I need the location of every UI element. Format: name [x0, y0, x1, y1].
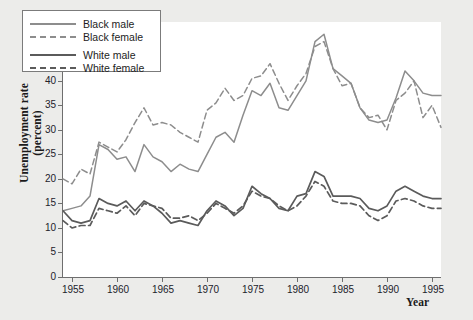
x-tick-label: 1980 — [284, 284, 312, 295]
chart-legend: Black male Black female White male White… — [22, 10, 161, 72]
y-tick-label: 25 — [45, 148, 56, 159]
x-tick-label: 1990 — [374, 284, 402, 295]
x-tick-1985: 1985 — [342, 277, 343, 282]
x-tick-1990: 1990 — [387, 277, 388, 282]
x-tick-label: 1985 — [329, 284, 357, 295]
x-axis-label: Year — [406, 296, 429, 308]
legend-label-black-female: Black female — [76, 31, 143, 43]
x-tick-1955: 1955 — [72, 277, 73, 282]
x-tick-label: 1970 — [194, 284, 222, 295]
x-tick-label: 1955 — [59, 284, 87, 295]
y-tick-label: 40 — [45, 75, 56, 86]
y-tick-0: 0 — [58, 277, 63, 278]
legend-key-black-male-icon — [30, 19, 76, 29]
x-tick-1970: 1970 — [207, 277, 208, 282]
legend-key-white-female-icon — [30, 63, 76, 73]
x-tick-1960: 1960 — [117, 277, 118, 282]
legend-label-white-male: White male — [76, 49, 136, 61]
legend-item-black-female: Black female — [30, 30, 160, 43]
chart-figure: Unemployment rate (percent) 051015202530… — [0, 0, 473, 320]
x-tick-1995: 1995 — [432, 277, 433, 282]
y-tick-label: 10 — [45, 222, 56, 233]
x-tick-1975: 1975 — [252, 277, 253, 282]
legend-label-white-female: White female — [76, 62, 144, 74]
legend-key-black-female-icon — [30, 32, 76, 42]
y-tick-label: 15 — [45, 197, 56, 208]
y-tick-label: 30 — [45, 124, 56, 135]
legend-label-black-male: Black male — [76, 18, 134, 30]
y-tick-label: 35 — [45, 99, 56, 110]
x-tick-1980: 1980 — [297, 277, 298, 282]
legend-item-white-male: White male — [30, 48, 160, 61]
x-tick-label: 1995 — [419, 284, 447, 295]
y-tick-label: 5 — [50, 246, 56, 257]
legend-item-black-male: Black male — [30, 17, 160, 30]
y-tick-label: 0 — [50, 271, 56, 282]
y-tick-label: 20 — [45, 173, 56, 184]
x-tick-label: 1965 — [149, 284, 177, 295]
x-tick-1965: 1965 — [162, 277, 163, 282]
legend-key-white-male-icon — [30, 50, 76, 60]
x-tick-label: 1960 — [104, 284, 132, 295]
legend-item-white-female: White female — [30, 61, 160, 74]
x-tick-label: 1975 — [239, 284, 267, 295]
